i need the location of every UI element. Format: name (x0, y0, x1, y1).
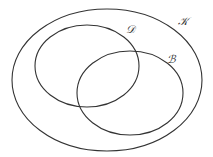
set-k-label: 𝒦 (178, 16, 188, 27)
set-d-label: 𝒟 (126, 24, 135, 35)
set-d-ellipse (35, 25, 139, 107)
set-b-label: ℬ (167, 54, 176, 65)
set-k-ellipse (12, 9, 202, 151)
venn-diagram: 𝒦 𝒟 ℬ (0, 0, 213, 157)
